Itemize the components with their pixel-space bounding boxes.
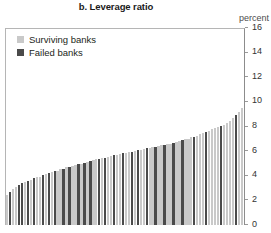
legend-label-failed-banks: Failed banks: [29, 47, 83, 58]
tick-label: 14: [252, 46, 262, 56]
tick-mark: [245, 150, 248, 151]
tick-label: 16: [252, 22, 262, 32]
bar: [241, 108, 243, 225]
tick-mark: [245, 175, 248, 176]
leverage-ratio-chart: b. Leverage ratio percent 1614121086420 …: [0, 0, 271, 233]
legend-item-failed-banks: Failed banks: [17, 46, 96, 59]
legend-item-surviving-banks: Surviving banks: [17, 33, 96, 46]
tick-mark: [245, 224, 248, 225]
tick-label: 8: [252, 120, 257, 130]
y-axis: 1614121086420: [245, 28, 271, 225]
tick-mark: [245, 76, 248, 77]
chart-title: b. Leverage ratio: [0, 1, 232, 12]
tick-mark: [245, 101, 248, 102]
tick-label: 2: [252, 194, 257, 204]
tick-label: 0: [252, 219, 257, 229]
tick-mark: [245, 52, 248, 53]
light-gray-swatch-icon: [17, 36, 24, 43]
legend-label-surviving-banks: Surviving banks: [29, 34, 96, 45]
tick-mark: [245, 27, 248, 28]
tick-label: 12: [252, 71, 262, 81]
tick-mark: [245, 126, 248, 127]
tick-label: 4: [252, 169, 257, 179]
dark-gray-swatch-icon: [17, 49, 24, 56]
tick-mark: [245, 199, 248, 200]
tick-label: 10: [252, 95, 262, 105]
chart-legend: Surviving banks Failed banks: [17, 33, 96, 59]
tick-label: 6: [252, 145, 257, 155]
